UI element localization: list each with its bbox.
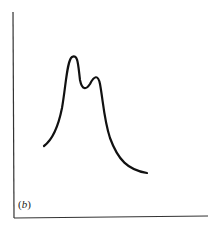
chart-figure: (b) [0,0,222,228]
panel-label-close: ) [27,198,31,210]
x-axis [14,216,208,218]
data-line [44,56,147,173]
panel-label: (b) [18,198,31,210]
chart-canvas [0,0,222,228]
y-axis [13,12,14,218]
